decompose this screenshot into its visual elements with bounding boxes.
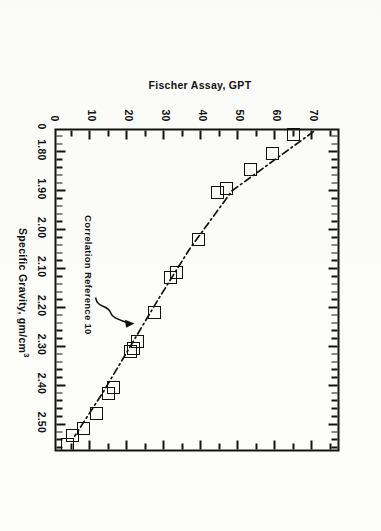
y-axis-tick-label: 50 bbox=[233, 95, 245, 122]
y-axis-tick bbox=[199, 131, 201, 140]
y-axis-tick bbox=[218, 131, 220, 137]
y-axis-tick bbox=[236, 441, 238, 450]
x-axis-tick bbox=[331, 275, 337, 277]
x-axis-tick bbox=[331, 377, 337, 379]
x-axis-tick bbox=[56, 143, 62, 145]
x-axis-tick bbox=[56, 353, 62, 355]
y-axis-tick-label: 20 bbox=[122, 95, 134, 122]
x-axis-tick bbox=[56, 291, 62, 293]
x-axis-tick bbox=[56, 361, 62, 363]
data-point-marker bbox=[101, 387, 114, 400]
x-axis-tick bbox=[331, 400, 337, 402]
y-axis-tick bbox=[162, 441, 164, 450]
x-axis-tick bbox=[56, 252, 62, 254]
x-axis-tick bbox=[331, 159, 337, 161]
x-axis-tick bbox=[331, 174, 337, 176]
x-axis-tick bbox=[56, 423, 65, 425]
y-axis-tick bbox=[181, 131, 183, 137]
x-axis-tick bbox=[328, 190, 337, 192]
y-axis-tick-label: 0 bbox=[48, 95, 60, 122]
x-axis-tick bbox=[331, 143, 337, 145]
x-axis-tick bbox=[328, 229, 337, 231]
x-axis-tick bbox=[331, 322, 337, 324]
x-axis-tick bbox=[56, 322, 62, 324]
y-axis-tick bbox=[162, 131, 164, 140]
x-axis-tick-label: 2.20 bbox=[35, 295, 47, 316]
y-axis-tick bbox=[107, 131, 109, 137]
y-axis-tick bbox=[88, 441, 90, 450]
x-axis-tick bbox=[331, 166, 337, 168]
y-axis-title: Fischer Assay, GPT bbox=[149, 79, 252, 91]
y-axis-tick bbox=[255, 444, 257, 450]
x-axis-tick-label: 2.30 bbox=[35, 334, 47, 355]
x-axis-tick bbox=[328, 423, 337, 425]
y-axis-tick bbox=[107, 444, 109, 450]
x-axis-tick bbox=[331, 221, 337, 223]
x-axis-tick bbox=[331, 330, 337, 332]
x-axis-tick bbox=[331, 260, 337, 262]
y-axis-tick bbox=[292, 444, 294, 450]
x-axis-tick bbox=[331, 283, 337, 285]
y-axis-tick-label: 10 bbox=[85, 95, 97, 122]
x-axis-tick bbox=[56, 237, 62, 239]
x-axis-tick bbox=[56, 198, 62, 200]
x-axis-tick bbox=[56, 408, 62, 410]
y-axis-tick bbox=[125, 131, 127, 140]
x-axis-title: Specific Gravity, gm/cm3 bbox=[17, 228, 31, 358]
x-axis-tick bbox=[331, 361, 337, 363]
x-axis-tick bbox=[56, 299, 62, 301]
y-axis-tick bbox=[236, 131, 238, 140]
y-axis-tick bbox=[310, 131, 312, 140]
x-axis-tick bbox=[331, 408, 337, 410]
x-axis-tick bbox=[56, 135, 62, 137]
x-axis-tick bbox=[328, 268, 337, 270]
x-axis-tick bbox=[331, 198, 337, 200]
x-axis-tick bbox=[56, 159, 62, 161]
x-axis-tick bbox=[56, 275, 62, 277]
y-axis-tick-label: 70 bbox=[307, 95, 319, 122]
y-axis-tick bbox=[88, 131, 90, 140]
y-axis-tick bbox=[144, 444, 146, 450]
data-point-marker bbox=[286, 128, 299, 141]
y-axis-tick bbox=[310, 441, 312, 450]
figure-scanned-chart: 1.801.902.002.102.202.302.402.5000102030… bbox=[0, 0, 381, 531]
x-axis-tick bbox=[56, 384, 65, 386]
y-axis-tick-label: 60 bbox=[270, 95, 282, 122]
y-axis-tick bbox=[199, 441, 201, 450]
x-axis-tick bbox=[331, 213, 337, 215]
x-axis-tick bbox=[56, 221, 62, 223]
x-axis-tick-label: 1.80 bbox=[35, 139, 47, 160]
x-axis-tick bbox=[56, 151, 65, 153]
x-axis-tick bbox=[328, 345, 337, 347]
y-axis-tick bbox=[181, 444, 183, 450]
rotated-chart-container: 1.801.902.002.102.202.302.402.5000102030… bbox=[29, 32, 352, 500]
x-axis-origin-label: 0 bbox=[35, 123, 47, 129]
x-axis-tick bbox=[56, 213, 62, 215]
y-axis-tick bbox=[273, 441, 275, 450]
data-point-marker bbox=[244, 163, 257, 176]
y-axis-tick-label: 30 bbox=[159, 95, 171, 122]
x-axis-tick bbox=[56, 244, 62, 246]
x-axis-tick bbox=[328, 307, 337, 309]
x-axis-tick bbox=[331, 431, 337, 433]
x-axis-tick bbox=[331, 439, 337, 441]
annotation-arrow-icon bbox=[81, 293, 141, 353]
x-axis-tick bbox=[331, 291, 337, 293]
y-axis-tick-label: 40 bbox=[196, 95, 208, 122]
x-axis-tick bbox=[56, 330, 62, 332]
x-axis-tick bbox=[56, 416, 62, 418]
x-axis-tick bbox=[56, 182, 62, 184]
x-axis-tick bbox=[56, 205, 62, 207]
x-axis-tick bbox=[56, 190, 65, 192]
x-axis-tick bbox=[331, 244, 337, 246]
x-axis-tick bbox=[56, 283, 62, 285]
y-axis-tick bbox=[70, 131, 72, 137]
x-axis-tick-label: 2.50 bbox=[35, 412, 47, 433]
x-axis-tick bbox=[56, 392, 62, 394]
x-axis-tick bbox=[56, 338, 62, 340]
data-point-marker bbox=[147, 306, 160, 319]
x-axis-tick bbox=[331, 237, 337, 239]
x-axis-tick bbox=[331, 252, 337, 254]
x-axis-tick bbox=[56, 307, 65, 309]
x-axis-tick bbox=[328, 384, 337, 386]
